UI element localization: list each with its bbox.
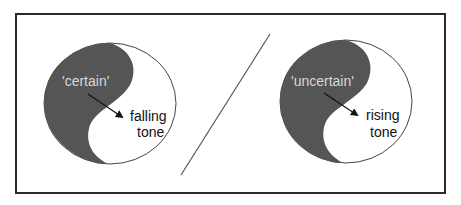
left-tone-label-line1: falling [130, 108, 167, 124]
right-yin-yang-icon [280, 40, 412, 163]
left-yin-yang-icon [44, 43, 176, 164]
right-tone-label-line2: tone [370, 124, 397, 140]
divider-slash [181, 34, 270, 175]
diagram-graphics [0, 0, 461, 205]
right-meaning-label: 'uncertain' [291, 73, 354, 89]
right-tone-label-line1: rising [366, 107, 399, 123]
left-meaning-label: 'certain' [62, 73, 109, 89]
left-tone-label-line2: tone [137, 124, 164, 140]
